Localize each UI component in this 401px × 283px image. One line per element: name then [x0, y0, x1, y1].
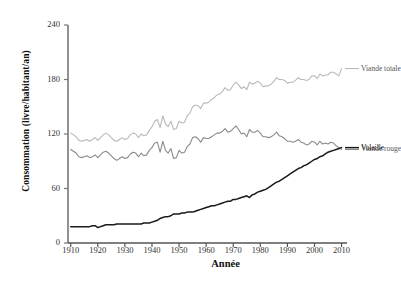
x-tick-label: 2000 [299, 245, 329, 255]
y-tick-label: 60 [32, 183, 60, 193]
x-tick-label: 1940 [137, 245, 167, 255]
x-tick-label: 1950 [164, 245, 194, 255]
y-tick-label: 120 [32, 128, 60, 138]
y-tick-label: 180 [32, 74, 60, 84]
x-tick-label: 1980 [245, 245, 275, 255]
x-tick-label: 1990 [272, 245, 302, 255]
x-tick-label: 1930 [110, 245, 140, 255]
series-line-2 [71, 126, 342, 161]
x-tick-label: 1910 [56, 245, 86, 255]
series-line-3 [71, 148, 342, 228]
y-tick-label: 240 [32, 19, 60, 29]
x-tick-label: 1960 [191, 245, 221, 255]
x-tick-label: 1920 [83, 245, 113, 255]
x-tick-label: 2010 [327, 245, 357, 255]
legend-label-3: Volaille [361, 143, 384, 152]
series-line-1 [71, 69, 342, 142]
x-tick-label: 1970 [218, 245, 248, 255]
legend-label-1: Viande totale [361, 64, 401, 73]
legend-leader-lines [345, 69, 359, 150]
axis-lines [68, 25, 347, 243]
data-series-lines [71, 69, 342, 228]
